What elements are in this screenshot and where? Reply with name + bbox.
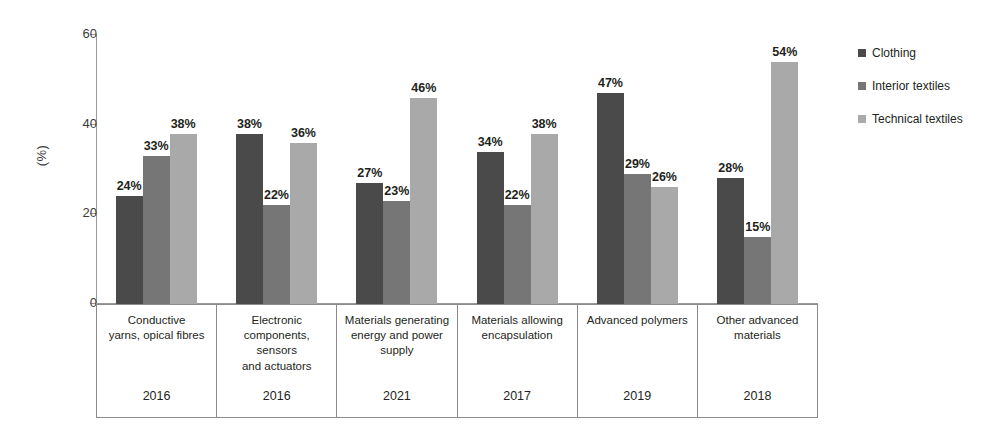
- bar-value-label: 22%: [264, 188, 289, 202]
- bar-fill: [290, 143, 317, 304]
- bar-group-bars: 47%29%26%: [577, 34, 697, 304]
- bar[interactable]: 23%: [383, 201, 410, 304]
- bar-value-label: 23%: [384, 184, 409, 198]
- bar-group: 34%22%38%: [457, 34, 577, 304]
- bar-fill: [170, 134, 197, 304]
- legend-item[interactable]: Technical textiles: [858, 102, 963, 135]
- bar[interactable]: 38%: [170, 134, 197, 304]
- bar-value-label: 26%: [652, 170, 677, 184]
- legend-label: Clothing: [872, 46, 916, 60]
- y-axis-title: (%): [34, 133, 49, 179]
- legend-item[interactable]: Clothing: [858, 36, 963, 69]
- legend-swatch-icon: [858, 115, 866, 123]
- legend-item[interactable]: Interior textiles: [858, 69, 963, 102]
- category-label-line: and actuators: [222, 359, 331, 374]
- bar-fill: [116, 196, 143, 304]
- bar[interactable]: 24%: [116, 196, 143, 304]
- category-year: 2021: [337, 389, 456, 417]
- category-cell: Conductiveyarns, opical fibres2016: [97, 304, 217, 417]
- bar[interactable]: 22%: [504, 205, 531, 304]
- bar-fill: [143, 156, 170, 304]
- category-label-line: components, sensors: [222, 328, 331, 358]
- y-tick-label: 60: [69, 26, 97, 41]
- bar[interactable]: 15%: [744, 237, 771, 304]
- bar-value-label: 28%: [718, 161, 743, 175]
- bar[interactable]: 46%: [410, 98, 437, 304]
- bar-group: 28%15%54%: [698, 34, 818, 304]
- category-label-line: Materials allowing: [463, 313, 572, 328]
- bar-value-label: 27%: [357, 166, 382, 180]
- legend-label: Technical textiles: [872, 112, 963, 126]
- category-label: Materials generatingenergy and powersupp…: [337, 304, 456, 359]
- bar-fill: [236, 134, 263, 304]
- bar-value-label: 47%: [598, 76, 623, 90]
- y-tick-label: 20: [69, 205, 97, 220]
- category-year: 2017: [458, 389, 577, 417]
- category-year: 2016: [217, 389, 336, 417]
- category-label-line: Conductive: [102, 313, 211, 328]
- category-label-line: Materials generating: [342, 313, 451, 328]
- bar[interactable]: 38%: [236, 134, 263, 304]
- category-year: 2016: [97, 389, 216, 417]
- bar-value-label: 29%: [625, 157, 650, 171]
- bar-group-bars: 24%33%38%: [96, 34, 216, 304]
- bar-group: 24%33%38%: [96, 34, 216, 304]
- bar[interactable]: 47%: [597, 93, 624, 304]
- category-label: Conductiveyarns, opical fibres: [97, 304, 216, 343]
- category-label-line: yarns, opical fibres: [102, 328, 211, 343]
- bar[interactable]: 54%: [771, 62, 798, 304]
- bar[interactable]: 38%: [531, 134, 558, 304]
- bar-fill: [504, 205, 531, 304]
- bar-fill: [597, 93, 624, 304]
- bar-group: 27%23%46%: [337, 34, 457, 304]
- bar-value-label: 22%: [505, 188, 530, 202]
- category-year: 2018: [698, 389, 817, 417]
- legend-swatch-icon: [858, 49, 866, 57]
- y-tick-label: 40: [69, 116, 97, 131]
- category-cell: Materials allowingencapsulation2017: [458, 304, 578, 417]
- category-label: Electroniccomponents, sensorsand actuato…: [217, 304, 336, 374]
- category-label: Materials allowingencapsulation: [458, 304, 577, 343]
- bar-fill: [624, 174, 651, 304]
- bar-value-label: 38%: [532, 117, 557, 131]
- bar[interactable]: 27%: [356, 183, 383, 304]
- bar-value-label: 46%: [411, 81, 436, 95]
- category-label-line: Other advanced: [703, 313, 812, 328]
- bar-group-bars: 38%22%36%: [216, 34, 336, 304]
- bar[interactable]: 26%: [651, 187, 678, 304]
- bar-value-label: 38%: [237, 117, 262, 131]
- legend-label: Interior textiles: [872, 79, 950, 93]
- bar[interactable]: 33%: [143, 156, 170, 304]
- category-label-line: supply: [342, 343, 451, 358]
- bar[interactable]: 28%: [717, 178, 744, 304]
- bar-value-label: 24%: [117, 179, 142, 193]
- category-cell: Other advancedmaterials2018: [698, 304, 817, 417]
- y-tick-label: 0: [69, 295, 97, 310]
- bar-group: 38%22%36%: [216, 34, 336, 304]
- bar-fill: [383, 201, 410, 304]
- bar-value-label: 15%: [745, 220, 770, 234]
- bar-group-bars: 27%23%46%: [337, 34, 457, 304]
- legend-swatch-icon: [858, 82, 866, 90]
- bar[interactable]: 36%: [290, 143, 317, 304]
- bar-fill: [356, 183, 383, 304]
- bar-value-label: 33%: [144, 139, 169, 153]
- bar-fill: [410, 98, 437, 304]
- bar-fill: [477, 152, 504, 304]
- y-tick: 40: [52, 124, 97, 125]
- bar[interactable]: 22%: [263, 205, 290, 304]
- bar-fill: [531, 134, 558, 304]
- bar-group-bars: 28%15%54%: [698, 34, 818, 304]
- bar-value-label: 54%: [772, 45, 797, 59]
- bar-value-label: 34%: [478, 135, 503, 149]
- bar[interactable]: 34%: [477, 152, 504, 304]
- category-cell: Electroniccomponents, sensorsand actuato…: [217, 304, 337, 417]
- bar-fill: [717, 178, 744, 304]
- bar-chart: (%) 0204060 24%33%38%38%22%36%27%23%46%3…: [0, 0, 991, 440]
- category-cell: Advanced polymers2019: [578, 304, 698, 417]
- category-year: 2019: [578, 389, 697, 417]
- category-table: Conductiveyarns, opical fibres2016Electr…: [96, 304, 818, 418]
- bar-fill: [651, 187, 678, 304]
- y-tick: 20: [52, 213, 97, 214]
- bar[interactable]: 29%: [624, 174, 651, 304]
